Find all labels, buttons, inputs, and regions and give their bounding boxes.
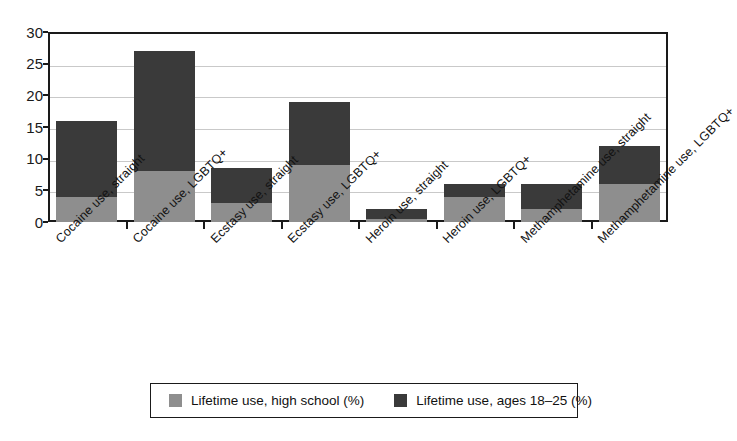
- y-axis: 051015202530: [0, 32, 48, 222]
- x-axis-category-labels: Cocaine use, straightCocaine use, LGBTQ+…: [0, 222, 681, 372]
- bar-segment-ages-18-25: [289, 102, 350, 165]
- legend-item-high-school: Lifetime use, high school (%): [169, 393, 364, 408]
- legend-swatch-ages-18-25-icon: [394, 394, 407, 407]
- legend-label-ages-18-25: Lifetime use, ages 18–25 (%): [416, 393, 592, 408]
- legend-item-ages-18-25: Lifetime use, ages 18–25 (%): [394, 393, 592, 408]
- bar-segment-ages-18-25: [134, 51, 195, 171]
- legend-label-high-school: Lifetime use, high school (%): [191, 393, 364, 408]
- chart-legend: Lifetime use, high school (%) Lifetime u…: [150, 383, 578, 418]
- legend-swatch-high-school-icon: [169, 394, 182, 407]
